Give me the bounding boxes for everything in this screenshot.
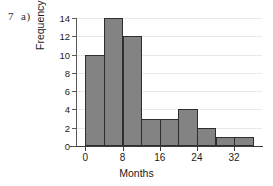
question-label: 7a) — [8, 10, 31, 22]
y-axis-tick-labels: 14121086420 — [52, 0, 70, 186]
histogram-bar — [234, 137, 254, 146]
x-axis-title: Months — [0, 167, 273, 179]
y-axis-tick-label: 12 — [59, 31, 70, 42]
y-axis-tick — [72, 109, 76, 110]
y-axis-tick-label: 2 — [65, 122, 70, 133]
x-axis-tick — [197, 147, 198, 151]
question-number: 7 — [8, 10, 14, 22]
x-axis-tick — [160, 147, 161, 151]
x-axis-tick-label: 8 — [120, 152, 126, 163]
histogram-bar — [85, 55, 105, 146]
histogram-bar — [178, 109, 198, 146]
x-axis-tick-label: 24 — [191, 152, 202, 163]
y-axis-tick — [72, 18, 76, 19]
y-axis-tick-label: 10 — [59, 49, 70, 60]
histogram-figure: 7a) Frequency 14121086420 08162432 Month… — [0, 0, 273, 186]
y-axis-tick — [72, 73, 76, 74]
histogram-bar — [123, 36, 143, 146]
histogram-bar — [160, 119, 180, 146]
x-axis-tick — [85, 147, 86, 151]
bar-series — [76, 18, 262, 146]
y-axis-tick — [72, 146, 76, 147]
y-axis-tick — [72, 36, 76, 37]
histogram-bar — [197, 128, 217, 146]
y-axis-tick-label: 6 — [65, 86, 70, 97]
x-axis-tick — [234, 147, 235, 151]
x-axis-tick-label: 0 — [83, 152, 89, 163]
y-axis-tick — [72, 91, 76, 92]
y-axis-title: Frequency — [34, 0, 46, 50]
y-axis-tick-label: 4 — [65, 104, 70, 115]
histogram-bar — [104, 18, 124, 146]
y-axis-tick-label: 14 — [59, 13, 70, 24]
plot-area — [76, 18, 262, 146]
y-axis-tick — [72, 128, 76, 129]
y-axis-line — [76, 18, 77, 147]
question-part: a) — [21, 10, 31, 22]
y-axis-tick — [72, 55, 76, 56]
x-axis-tick-label: 16 — [154, 152, 165, 163]
histogram-bar — [141, 119, 161, 146]
x-axis-tick-label: 32 — [229, 152, 240, 163]
y-axis-tick-label: 8 — [65, 67, 70, 78]
x-axis-tick — [123, 147, 124, 151]
histogram-bar — [216, 137, 236, 146]
